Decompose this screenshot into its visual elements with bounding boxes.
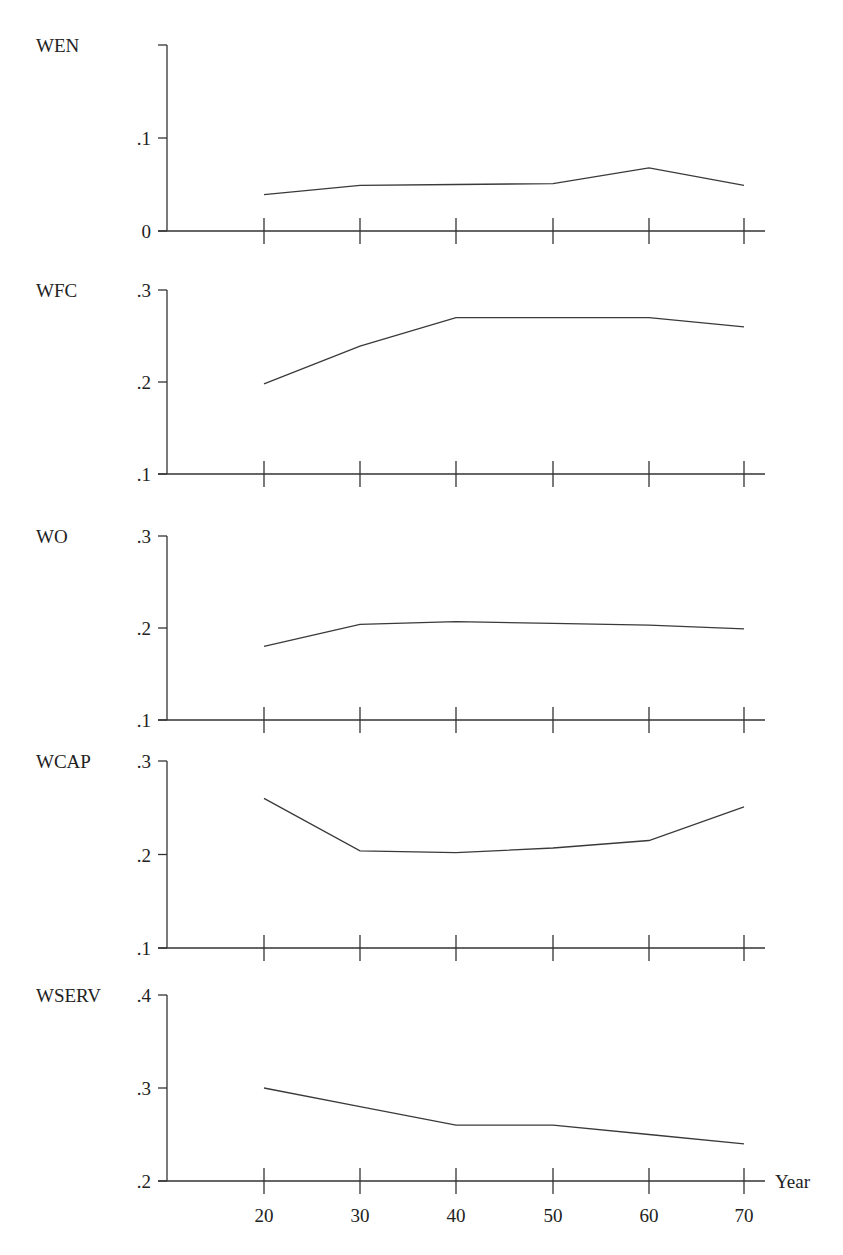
y-tick-label: .3 xyxy=(137,526,151,547)
panel-wfc: .1.2.3WFC xyxy=(36,280,765,487)
y-tick-label: 0 xyxy=(142,221,152,242)
panel-label-wcap: WCAP xyxy=(36,751,91,772)
x-tick-label: 40 xyxy=(447,1205,466,1226)
series-line-wen xyxy=(264,168,744,195)
y-tick-label: .1 xyxy=(137,464,151,485)
y-tick-label: .3 xyxy=(137,751,151,772)
x-tick-label: 60 xyxy=(640,1205,659,1226)
x-tick-label: 70 xyxy=(735,1205,754,1226)
y-tick-label: .2 xyxy=(137,618,151,639)
y-tick-label: .1 xyxy=(137,128,151,149)
series-line-wfc xyxy=(264,318,744,384)
series-line-wcap xyxy=(264,798,744,852)
panel-wen: 0.1WEN xyxy=(36,35,765,244)
series-line-wserv xyxy=(264,1088,744,1144)
chart-canvas: 0.1WEN.1.2.3WFC.1.2.3WO.1.2.3WCAP.2.3.4W… xyxy=(0,0,843,1255)
y-tick-label: .3 xyxy=(137,1078,151,1099)
y-tick-label: .3 xyxy=(137,280,151,301)
y-tick-label: .4 xyxy=(137,985,152,1006)
panel-wo: .1.2.3WO xyxy=(36,526,765,733)
multi-panel-line-chart: 0.1WEN.1.2.3WFC.1.2.3WO.1.2.3WCAP.2.3.4W… xyxy=(0,0,843,1255)
panel-label-wo: WO xyxy=(36,526,68,547)
y-tick-label: .1 xyxy=(137,710,151,731)
y-tick-label: .2 xyxy=(137,372,151,393)
x-tick-label: 50 xyxy=(544,1205,563,1226)
panel-label-wfc: WFC xyxy=(36,280,77,301)
y-tick-label: .2 xyxy=(137,845,151,866)
panel-label-wserv: WSERV xyxy=(36,985,101,1006)
panel-wserv: .2.3.4WSERV xyxy=(36,985,765,1194)
y-tick-label: .2 xyxy=(137,1171,151,1192)
panel-label-wen: WEN xyxy=(36,35,80,56)
panel-wcap: .1.2.3WCAP xyxy=(36,751,765,961)
x-tick-label: 20 xyxy=(255,1205,274,1226)
series-line-wo xyxy=(264,622,744,647)
x-tick-label: 30 xyxy=(351,1205,370,1226)
y-tick-label: .1 xyxy=(137,938,151,959)
x-axis-label: Year xyxy=(775,1171,811,1192)
